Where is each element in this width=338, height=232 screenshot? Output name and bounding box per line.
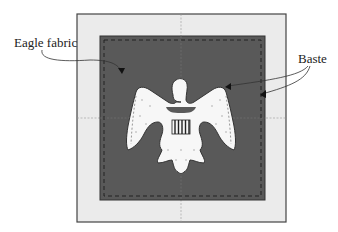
baste-label: Baste — [298, 51, 327, 67]
eagle-fabric-label: Eagle fabric — [14, 35, 77, 51]
